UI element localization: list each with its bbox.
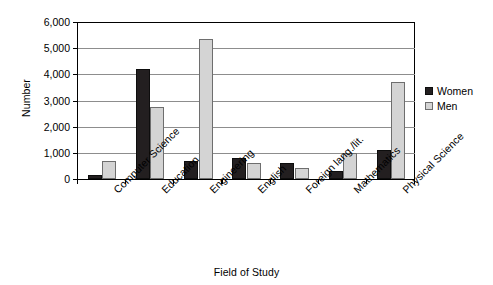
legend-label: Men <box>437 101 457 111</box>
bar-cluster <box>280 22 309 179</box>
bar-men <box>102 161 116 179</box>
legend-item: Women <box>425 84 473 98</box>
bar-men <box>391 82 405 179</box>
bar-men <box>199 39 213 179</box>
bar-men <box>247 163 261 179</box>
bar-men <box>295 168 309 179</box>
gray-square-swatch <box>425 102 433 110</box>
legend-label: Women <box>437 86 473 96</box>
black-square-swatch <box>425 87 433 95</box>
y-axis-ticks: 6,0005,0004,0003,0002,0001,0000 <box>20 0 70 285</box>
bar-chart: Number 6,0005,0004,0003,0002,0001,0000 C… <box>0 0 493 285</box>
y-tick-label: 2,000 <box>20 122 70 132</box>
bar-women <box>88 175 102 179</box>
y-tick-label: 6,000 <box>20 17 70 27</box>
x-tick-mark <box>77 179 78 184</box>
y-tick-label: 1,000 <box>20 148 70 158</box>
x-axis-title: Field of Study <box>0 266 493 278</box>
y-tick-label: 4,000 <box>20 69 70 79</box>
chart-legend: WomenMen <box>425 84 473 114</box>
bar-cluster <box>88 22 117 179</box>
y-tick-label: 0 <box>20 174 70 184</box>
legend-item: Men <box>425 99 473 113</box>
y-tick-label: 5,000 <box>20 43 70 53</box>
bar-cluster <box>184 22 213 179</box>
y-tick-label: 3,000 <box>20 96 70 106</box>
